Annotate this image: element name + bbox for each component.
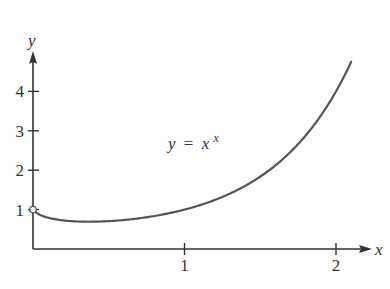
x-ticks: 12 <box>180 243 340 275</box>
x-tick-label: 2 <box>332 256 341 275</box>
chart: 12 1234 x y y = x x <box>0 0 390 289</box>
open-point-marker <box>30 206 36 212</box>
y-tick-label: 3 <box>16 122 25 141</box>
annotation-lhs: y <box>166 134 176 153</box>
function-annotation: y = x x <box>166 131 219 153</box>
x-axis-label: x <box>374 240 383 259</box>
y-axis-label: y <box>26 31 36 50</box>
annotation-base: x <box>201 134 210 153</box>
x-tick-label: 1 <box>180 256 189 275</box>
annotation-equals: = <box>184 134 194 153</box>
y-tick-label: 1 <box>16 201 25 220</box>
y-ticks: 1234 <box>16 82 40 219</box>
y-tick-label: 4 <box>16 82 25 101</box>
annotation-exponent: x <box>212 131 219 145</box>
y-tick-label: 2 <box>16 161 25 180</box>
